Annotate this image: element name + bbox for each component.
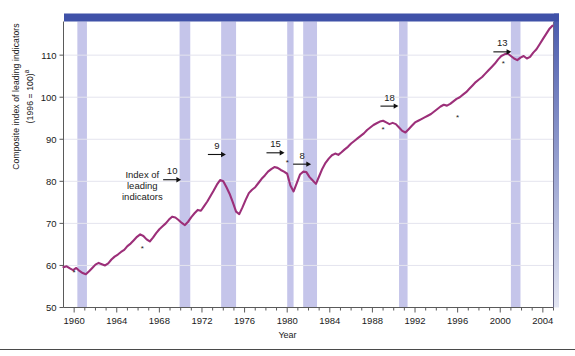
annotation-label-8: 8 bbox=[299, 150, 304, 161]
x-tick-label-1980: 1980 bbox=[277, 315, 298, 326]
inline-series-label-line3: indicators bbox=[122, 191, 163, 202]
annotation-label-9: 9 bbox=[214, 140, 219, 151]
y-axis-label-superscript: a bbox=[23, 70, 30, 74]
y-tick-label-80: 80 bbox=[46, 176, 57, 187]
recession-band-1 bbox=[180, 22, 191, 308]
annotation-label-10: 10 bbox=[167, 165, 178, 176]
annotation-label-13: 13 bbox=[497, 37, 508, 48]
chart-figure: 5060708090100110196019641968197219761980… bbox=[0, 0, 575, 356]
top-accent-bar bbox=[64, 14, 559, 22]
x-tick-label-1976: 1976 bbox=[234, 315, 255, 326]
recession-band-5 bbox=[399, 22, 408, 308]
x-tick-label-1968: 1968 bbox=[149, 315, 170, 326]
y-tick-label-90: 90 bbox=[46, 134, 57, 145]
x-axis-label: Year bbox=[0, 330, 575, 340]
inline-series-label-line1: Index of bbox=[125, 169, 159, 180]
recession-band-2 bbox=[221, 22, 236, 308]
x-tick-label-1988: 1988 bbox=[362, 315, 383, 326]
recession-band-6 bbox=[511, 22, 521, 308]
peak-marker-3: * bbox=[382, 125, 385, 134]
y-axis-label-line2: (1996 = 100) bbox=[25, 73, 35, 123]
x-tick-label-2000: 2000 bbox=[490, 315, 511, 326]
inline-series-label: Index ofleadingindicators bbox=[122, 169, 163, 202]
y-axis-label: Composite index of leading indicators (1… bbox=[11, 0, 36, 197]
leading-indicators-line-chart: 5060708090100110196019641968197219761980… bbox=[0, 0, 575, 356]
x-tick-label-1972: 1972 bbox=[191, 315, 212, 326]
annotation-label-18: 18 bbox=[384, 92, 395, 103]
annotation-label-15: 15 bbox=[270, 138, 281, 149]
x-tick-label-1964: 1964 bbox=[106, 315, 127, 326]
figure-bottom-rule bbox=[0, 349, 575, 350]
y-tick-label-50: 50 bbox=[46, 302, 57, 313]
right-accent-bar bbox=[554, 14, 559, 308]
y-tick-label-60: 60 bbox=[46, 260, 57, 271]
x-tick-label-1992: 1992 bbox=[404, 315, 425, 326]
y-axis-ticks: 5060708090100110 bbox=[41, 50, 64, 313]
x-axis-ticks: 1960196419681972197619801984198819921996… bbox=[64, 308, 554, 326]
x-tick-label-1960: 1960 bbox=[64, 315, 85, 326]
x-tick-label-1996: 1996 bbox=[447, 315, 468, 326]
peak-marker-4: * bbox=[456, 113, 459, 122]
recession-band-0 bbox=[77, 22, 87, 308]
y-tick-label-110: 110 bbox=[41, 50, 56, 61]
y-tick-label-70: 70 bbox=[46, 218, 57, 229]
peak-marker-2: * bbox=[286, 158, 289, 167]
x-tick-label-1984: 1984 bbox=[319, 315, 340, 326]
y-tick-label-100: 100 bbox=[41, 92, 57, 103]
peak-marker-5: * bbox=[502, 59, 505, 68]
inline-series-label-line2: leading bbox=[127, 180, 158, 191]
y-axis-label-line1: Composite index of leading indicators bbox=[11, 23, 21, 170]
peak-marker-0: * bbox=[73, 268, 76, 277]
peak-marker-1: * bbox=[141, 244, 144, 253]
x-tick-label-2004: 2004 bbox=[532, 315, 553, 326]
